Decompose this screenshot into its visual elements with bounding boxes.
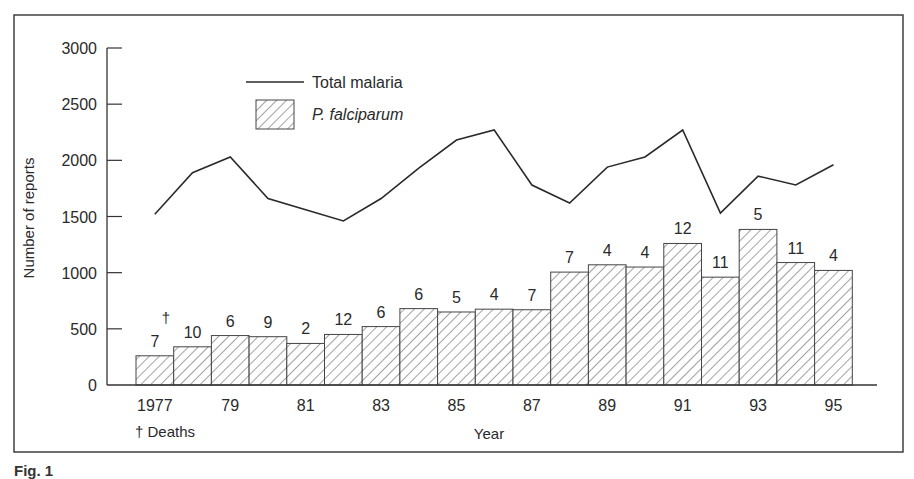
y-tick-label: 2500	[61, 96, 97, 113]
bar-1978	[174, 347, 212, 385]
legend-hatch-marker	[256, 100, 294, 129]
deaths-label: 4	[603, 242, 612, 259]
deaths-label: 4	[490, 286, 499, 303]
bar-1987	[513, 310, 551, 385]
deaths-label: 4	[829, 247, 838, 264]
x-tick-label: 81	[297, 397, 315, 414]
bar-1983	[362, 327, 400, 385]
falciparum-bars	[136, 229, 852, 385]
x-tick-label: 93	[749, 397, 767, 414]
bar-1977	[136, 356, 174, 385]
bar-1984	[400, 309, 438, 385]
deaths-label: 2	[301, 320, 310, 337]
bar-1982	[325, 334, 363, 385]
x-tick-label: 89	[598, 397, 616, 414]
bar-1979	[211, 336, 249, 385]
deaths-label: 10	[184, 324, 202, 341]
bar-1980	[249, 337, 287, 385]
bar-1986	[475, 309, 513, 385]
figure-caption: Fig. 1	[14, 462, 53, 479]
x-tick-label: 83	[372, 397, 390, 414]
x-tick-label: 79	[221, 397, 239, 414]
deaths-label: 5	[452, 289, 461, 306]
deaths-label: 6	[226, 313, 235, 330]
bar-1994	[777, 263, 815, 385]
x-tick-label: 91	[674, 397, 692, 414]
y-axis: 050010001500200025003000	[61, 40, 122, 394]
bar-1990	[626, 267, 664, 385]
x-tick-label: 1977	[137, 397, 173, 414]
deaths-label: 11	[787, 240, 804, 257]
y-tick-label: 2000	[61, 152, 97, 169]
y-tick-label: 3000	[61, 40, 97, 57]
deaths-label: 6	[377, 304, 386, 321]
x-tick-label: 95	[825, 397, 843, 414]
deaths-label: 9	[263, 314, 272, 331]
deaths-label: 4	[640, 244, 649, 261]
legend-total-malaria-label: Total malaria	[312, 74, 403, 91]
deaths-label: 12	[334, 311, 352, 328]
y-tick-label: 1500	[61, 209, 97, 226]
bar-1988	[551, 272, 589, 385]
deaths-footnote: † Deaths	[135, 423, 195, 440]
deaths-label: 11	[712, 254, 729, 271]
x-tick-label: 87	[523, 397, 541, 414]
deaths-label: 7	[565, 249, 574, 266]
bar-1995	[815, 270, 853, 385]
y-tick-label: 500	[70, 321, 97, 338]
deaths-label: 7	[150, 333, 159, 350]
legend-falciparum-label: P. falciparum	[312, 106, 403, 123]
deaths-label: 5	[754, 206, 763, 223]
total-malaria-line	[155, 130, 834, 221]
x-axis-label: Year	[474, 425, 504, 442]
legend: Total malaria P. falciparum	[246, 74, 403, 129]
bar-1989	[588, 265, 626, 385]
bar-1992	[702, 277, 740, 385]
x-tick-label: 85	[448, 397, 466, 414]
y-tick-label: 0	[88, 377, 97, 394]
deaths-label: 12	[674, 220, 692, 237]
deaths-label: 7	[527, 287, 536, 304]
bar-1981	[287, 343, 325, 385]
y-tick-label: 1000	[61, 265, 97, 282]
dagger-marker: †	[162, 309, 170, 326]
y-axis-label: Number of reports	[20, 158, 37, 279]
bar-1993	[739, 229, 777, 385]
bar-1985	[438, 312, 476, 385]
deaths-label: 6	[414, 286, 423, 303]
bar-1991	[664, 243, 702, 385]
x-axis: 1977798183858789919395	[107, 385, 877, 414]
